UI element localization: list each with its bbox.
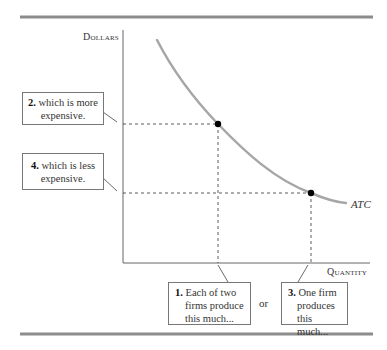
callout-box-2: 2. which is more expensive. <box>22 92 104 125</box>
callout-3-line-2: produces <box>288 299 343 312</box>
two-firms-point <box>215 121 221 127</box>
x-axis-label: Quantity <box>327 266 367 277</box>
callout-3-line-1: One firm <box>299 287 337 298</box>
leader-3 <box>298 265 308 282</box>
or-connector: or <box>259 297 268 309</box>
callout-3-number: 3. <box>288 287 296 298</box>
atc-curve-label: ATC <box>351 198 371 210</box>
atc-curve <box>157 40 346 203</box>
callout-2-line-1: which is more <box>39 97 99 108</box>
callout-4-line-1: which is less <box>41 160 95 171</box>
callout-1-line-3: this much... <box>175 312 246 325</box>
callout-3-line-3: this much... <box>288 312 343 338</box>
callout-2-line-2: expensive. <box>23 109 103 122</box>
callout-4-line-2: expensive. <box>23 172 103 185</box>
callout-box-1: 1. Each of two firms produce this much..… <box>168 282 251 325</box>
leader-1 <box>218 265 228 282</box>
y-axis-label: Dollars <box>83 31 119 42</box>
callout-1-line-2: firms produce <box>175 299 246 312</box>
leader-4 <box>103 178 117 191</box>
callout-1-line-1: Each of two <box>186 287 237 298</box>
callout-2-number: 2. <box>28 97 36 108</box>
callout-4-number: 4. <box>31 160 39 171</box>
callout-1-number: 1. <box>175 287 183 298</box>
callout-box-3: 3. One firm produces this much... <box>281 282 348 325</box>
leader-2 <box>103 112 117 122</box>
callout-box-4: 4. which is less expensive. <box>22 153 104 190</box>
one-firm-point <box>308 190 314 196</box>
